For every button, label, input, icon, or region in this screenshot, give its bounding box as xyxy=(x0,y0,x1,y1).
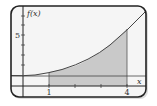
x-tick-label-4: 4 xyxy=(125,88,130,97)
x-axis-label: x xyxy=(137,77,142,86)
x-tick-label-1: 1 xyxy=(47,88,52,97)
y-tick-label-5: 5 xyxy=(15,31,20,40)
y-axis-label: f(x) xyxy=(26,9,41,18)
chart: f(x) x 1 4 5 xyxy=(0,0,157,106)
